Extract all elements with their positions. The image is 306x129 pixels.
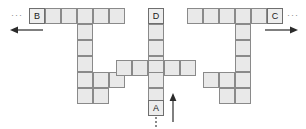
grid-cell — [235, 40, 251, 56]
grid-cell — [219, 8, 235, 24]
grid-cell-d: D — [148, 8, 164, 24]
right-dotted-continuation: ··· — [287, 11, 299, 20]
grid-cell — [77, 56, 93, 72]
grid-cell — [187, 8, 203, 24]
grid-cell — [132, 60, 148, 76]
grid-cell — [77, 24, 93, 40]
cell-label-d: D — [149, 9, 163, 23]
grid-cell — [93, 8, 109, 24]
grid-cell — [235, 24, 251, 40]
right-pointing-arrow — [264, 25, 298, 35]
grid-cell — [235, 72, 251, 88]
grid-cell — [235, 8, 251, 24]
grid-cell — [45, 8, 61, 24]
right-arrow-head — [290, 27, 298, 34]
grid-cell — [109, 8, 125, 24]
cell-label-a: A — [149, 101, 163, 115]
up-pointing-arrow — [168, 93, 178, 123]
grid-cell — [93, 72, 109, 88]
up-arrow-head — [170, 93, 177, 101]
grid-cell — [61, 8, 77, 24]
grid-cell — [219, 72, 235, 88]
grid-cell-c: C — [267, 8, 283, 24]
grid-cell — [77, 8, 93, 24]
grid-cell-a: A — [148, 100, 164, 116]
grid-cell — [235, 88, 251, 104]
grid-cell — [116, 60, 132, 76]
grid-cell — [148, 40, 164, 56]
grid-cell — [164, 60, 180, 76]
left-arrow-head — [10, 27, 18, 34]
diagram-canvas: B D A — [0, 0, 306, 129]
grid-cell — [219, 88, 235, 104]
grid-cell — [251, 8, 267, 24]
grid-cell-b: B — [29, 8, 45, 24]
left-pointing-arrow — [10, 25, 44, 35]
grid-cell — [235, 56, 251, 72]
bottom-dotted-continuation — [155, 117, 157, 128]
left-dotted-continuation: ··· — [11, 11, 23, 20]
grid-cell — [77, 72, 93, 88]
grid-cell — [93, 88, 109, 104]
grid-cell — [77, 40, 93, 56]
grid-cell — [203, 8, 219, 24]
grid-cell — [203, 72, 219, 88]
grid-cell — [180, 60, 196, 76]
grid-cell — [77, 88, 93, 104]
grid-cell — [148, 24, 164, 40]
cell-label-b: B — [30, 9, 44, 23]
grid-cell — [148, 72, 164, 88]
cell-label-c: C — [268, 9, 282, 23]
